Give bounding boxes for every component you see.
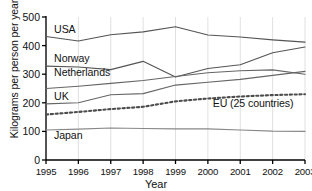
line-chart: Kilograms per person per year 0100200300… [0, 0, 312, 191]
series-label-norway: Norway [54, 52, 89, 64]
plot-area [0, 0, 312, 191]
series-label-eu-25-countries: EU (25 countries) [213, 97, 294, 109]
series-label-japan: Japan [54, 129, 82, 141]
x-axis-label: Year [0, 178, 312, 190]
series-label-netherlands: Netherlands [54, 66, 110, 78]
series-label-usa: USA [54, 23, 75, 35]
series-label-uk: UK [54, 90, 69, 102]
